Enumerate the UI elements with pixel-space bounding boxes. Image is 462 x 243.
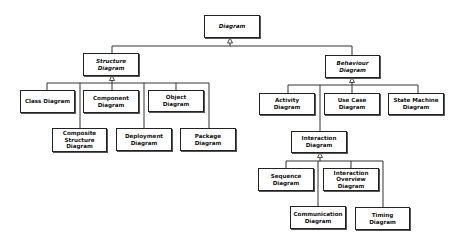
diagram-root-box: Diagram — [204, 15, 260, 38]
use-case-diagram-box: Use CaseDiagram — [324, 93, 380, 115]
state-machine-diagram-box: State MachineDiagram — [388, 93, 444, 115]
composite-label-1: Composite — [63, 130, 96, 136]
generalization-arrow — [110, 76, 115, 81]
overview-label-2: Overview — [336, 176, 365, 182]
sequence-diagram-box: SequenceDiagram — [258, 168, 314, 191]
structure-label-2: Diagram — [98, 65, 125, 71]
communication-label-2: Diagram — [305, 218, 332, 224]
generalization-arrow — [228, 38, 233, 43]
generalization-arrow — [318, 153, 323, 158]
state-label-1: State Machine — [393, 97, 438, 103]
behaviour-label-2: Diagram — [339, 67, 366, 73]
object-diagram-box: ObjectDiagram — [148, 90, 204, 112]
component-label-1: Component — [93, 95, 129, 101]
state-label-2: Diagram — [403, 104, 430, 110]
package-label-2: Diagram — [195, 140, 222, 146]
sequence-label-1: Sequence — [271, 173, 302, 179]
object-label-2: Diagram — [163, 101, 190, 107]
behaviour-label-1: Behaviour — [337, 60, 369, 66]
usecase-label-1: Use Case — [338, 97, 367, 103]
interaction-label-2: Diagram — [306, 142, 333, 148]
timing-label-1: Timing — [372, 212, 393, 218]
deployment-diagram-box: DeploymentDiagram — [116, 128, 172, 151]
sequence-label-2: Diagram — [273, 180, 300, 186]
communication-label-1: Communication — [294, 211, 343, 217]
overview-label-3: Diagram — [338, 183, 365, 189]
communication-diagram-box: CommunicationDiagram — [290, 206, 346, 229]
deployment-label-1: Deployment — [125, 133, 163, 139]
composite-label-2: Structure — [65, 137, 95, 143]
activity-label-2: Diagram — [274, 104, 301, 110]
structure-diagram-box: StructureDiagram — [83, 53, 139, 76]
overview-label-1: Interaction — [334, 170, 369, 176]
interaction-diagram-box: InteractionDiagram — [291, 131, 347, 153]
component-diagram-box: ComponentDiagram — [83, 90, 139, 113]
diagram-root-label: Diagram — [219, 23, 246, 30]
package-label-1: Package — [195, 133, 221, 139]
component-label-2: Diagram — [98, 102, 125, 108]
interaction-label-1: Interaction — [302, 135, 337, 141]
generalization-arrow — [350, 78, 355, 83]
structure-label-1: Structure — [96, 58, 126, 64]
usecase-label-2: Diagram — [339, 104, 366, 110]
package-diagram-box: PackageDiagram — [180, 128, 236, 151]
activity-label-1: Activity — [275, 97, 299, 103]
class-diagram-box: Class Diagram — [20, 90, 75, 113]
deployment-label-2: Diagram — [131, 140, 158, 146]
uml-diagram-hierarchy: Diagram StructureDiagram Class Diagram C… — [0, 0, 462, 243]
timing-label-2: Diagram — [369, 219, 396, 225]
interaction-overview-diagram-box: InteractionOverviewDiagram — [323, 168, 379, 191]
timing-diagram-box: TimingDiagram — [355, 207, 410, 230]
behaviour-diagram-box: BehaviourDiagram — [325, 55, 380, 78]
activity-diagram-box: ActivityDiagram — [259, 93, 315, 115]
composite-label-3: Diagram — [66, 143, 93, 149]
object-label-1: Object — [166, 94, 186, 100]
class-diagram-label: Class Diagram — [25, 98, 70, 105]
composite-structure-diagram-box: CompositeStructureDiagram — [52, 128, 107, 152]
